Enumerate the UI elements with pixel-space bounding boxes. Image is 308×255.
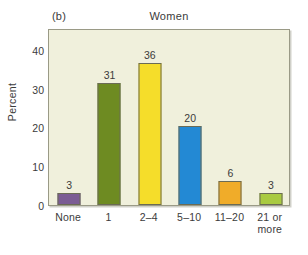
x-tick-label-21-or-more: 21 or more bbox=[246, 211, 294, 235]
bar-value-label: 31 bbox=[104, 70, 116, 81]
bar-value-label: 3 bbox=[268, 180, 274, 191]
bar-series: 3 31 36 20 6 3 bbox=[49, 30, 289, 205]
bar-value-label: 20 bbox=[184, 113, 196, 124]
y-axis-ticks: 0 10 20 30 40 bbox=[18, 0, 44, 255]
y-axis-label: Percent bbox=[6, 72, 18, 132]
bar-slot: 6 bbox=[210, 30, 250, 205]
bar-value-label: 3 bbox=[66, 180, 72, 191]
y-tick-label: 20 bbox=[22, 123, 44, 133]
bar-slot: 20 bbox=[170, 30, 210, 205]
bar-1 bbox=[98, 83, 121, 205]
y-tick-label: 0 bbox=[22, 201, 44, 211]
bar-slot: 36 bbox=[130, 30, 170, 205]
bar-value-label: 36 bbox=[144, 50, 156, 61]
plot-area: 3 31 36 20 6 3 bbox=[48, 29, 290, 206]
y-tick-label: 30 bbox=[22, 85, 44, 95]
bar-slot: 3 bbox=[251, 30, 291, 205]
y-tick-label: 10 bbox=[22, 162, 44, 172]
x-axis-labels: None 1 2–4 5–10 11–20 21 or more bbox=[48, 211, 290, 251]
bar-slot: 3 bbox=[49, 30, 89, 205]
bar-5-10 bbox=[179, 126, 202, 205]
bar-none bbox=[58, 193, 81, 205]
chart-figure: (b) Women Percent 0 10 20 30 40 3 31 36 bbox=[0, 0, 308, 255]
bar-2-4 bbox=[138, 63, 161, 205]
chart-title: Women bbox=[48, 10, 290, 22]
bar-value-label: 6 bbox=[228, 168, 234, 179]
bar-slot: 31 bbox=[89, 30, 129, 205]
x-tick-line1: 21 or bbox=[246, 211, 294, 223]
bar-21-or-more bbox=[259, 193, 282, 205]
y-tick-label: 40 bbox=[22, 46, 44, 56]
x-tick-line2: more bbox=[246, 223, 294, 235]
bar-11-20 bbox=[219, 181, 242, 205]
